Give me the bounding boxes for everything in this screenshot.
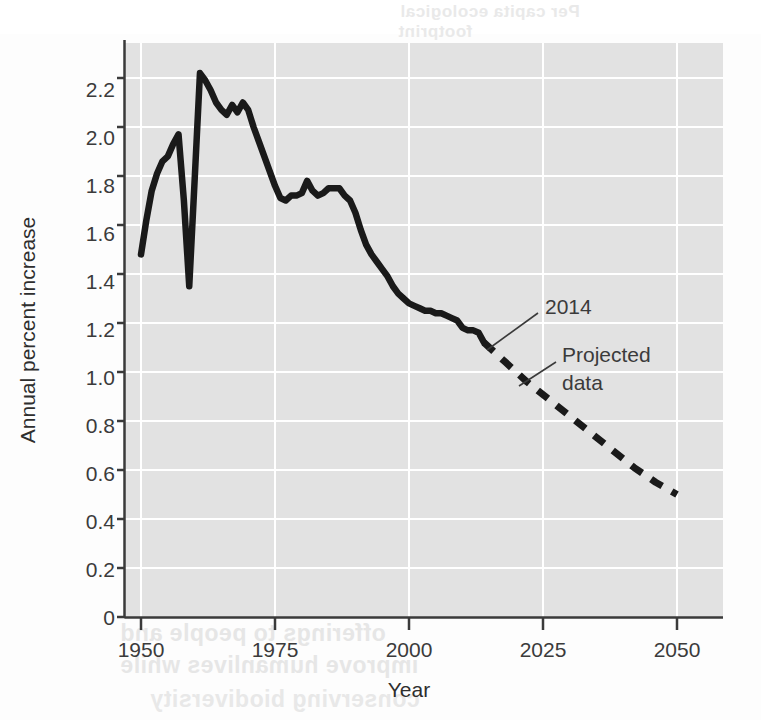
line-chart: 0 0.2 0.4 0.6 0.8 1.0 1.2 1.4 1.6 1.8 2.… [0,0,761,720]
y-tick-label-1_2: 1.2 [86,318,115,341]
x-tick-label-1950: 1950 [118,638,165,661]
x-axis-title: Year [388,678,430,701]
y-tick-label-0_4: 0.4 [86,510,116,533]
x-axis-ticks [141,618,677,630]
y-tick-label-1_0: 1.0 [86,366,115,389]
y-tick-label-2_2: 2.2 [86,78,115,101]
y-tick-label-0: 0 [103,606,115,629]
y-tick-label-1_4: 1.4 [86,270,116,293]
annotation-projected-line2: data [562,371,603,394]
y-axis-title: Annual percent increase [16,217,39,443]
y-tick-label-0_2: 0.2 [86,558,115,581]
annotation-projected-line1: Projected [562,343,651,366]
y-tick-label-1_6: 1.6 [86,222,115,245]
y-tick-label-1_8: 1.8 [86,174,115,197]
plot-background [125,43,723,617]
y-tick-label-0_6: 0.6 [86,462,115,485]
x-tick-label-1975: 1975 [252,638,299,661]
x-tick-label-2050: 2050 [654,638,701,661]
x-tick-label-2000: 2000 [386,638,433,661]
y-tick-label-2_0: 2.0 [86,126,115,149]
y-tick-label-0_8: 0.8 [86,414,115,437]
x-tick-label-2025: 2025 [520,638,567,661]
figure-container: Per capita ecological footprint 43.5% Pe… [0,0,761,720]
annotation-2014: 2014 [545,295,592,318]
